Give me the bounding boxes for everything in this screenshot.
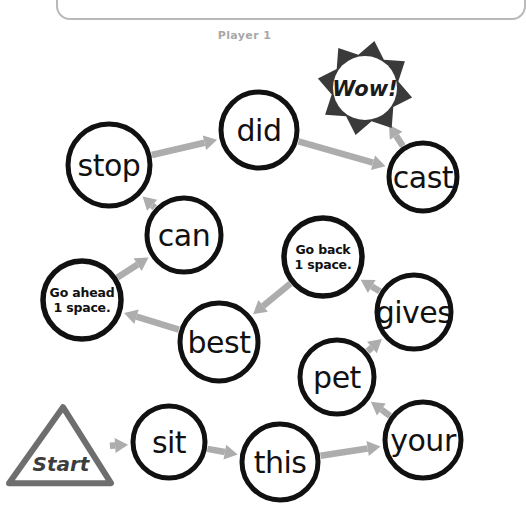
node-label-your: your — [390, 423, 457, 458]
node-stop[interactable]: stop — [68, 124, 150, 206]
arrow-this-to-your — [321, 441, 381, 456]
node-label-cast: cast — [393, 160, 454, 195]
node-best[interactable]: best — [180, 303, 258, 381]
node-goahead[interactable]: Go ahead1 space. — [43, 261, 121, 339]
node-label-stop: stop — [78, 148, 141, 183]
node-label-did: did — [237, 113, 282, 148]
arrow-sit-to-this — [207, 445, 237, 460]
node-label-pet: pet — [313, 360, 362, 395]
node-your[interactable]: your — [385, 402, 461, 478]
node-gives[interactable]: gives — [376, 275, 453, 349]
node-cast[interactable]: cast — [389, 143, 457, 211]
arrow-start-to-sit — [110, 438, 128, 453]
arrow-gives-to-goback — [361, 280, 380, 293]
node-label-goahead: Go ahead1 space. — [50, 284, 115, 314]
start-marker[interactable]: Start — [9, 407, 111, 483]
arrow-pet-to-gives — [367, 339, 382, 353]
node-label-best: best — [188, 325, 252, 360]
arrow-goahead-to-can — [117, 258, 148, 278]
node-label-goback: Go back1 space. — [295, 241, 352, 271]
arrow-cast-to-reward — [389, 125, 403, 146]
reward-label: Wow! — [332, 77, 397, 101]
node-did[interactable]: did — [221, 92, 297, 168]
reward-burst[interactable]: Wow! — [318, 41, 412, 135]
node-can[interactable]: can — [147, 198, 221, 272]
arrow-stop-to-did — [152, 135, 217, 155]
arrow-best-to-goahead — [124, 310, 179, 330]
node-goback[interactable]: Go back1 space. — [284, 218, 362, 296]
start-label: Start — [33, 452, 91, 476]
arrow-goback-to-best — [253, 284, 290, 315]
node-sit[interactable]: sit — [133, 406, 205, 478]
arrow-your-to-pet — [371, 402, 390, 416]
reward-burst-layer: Wow! — [318, 41, 412, 135]
start-marker-layer: Start — [9, 407, 111, 483]
node-label-gives: gives — [376, 295, 453, 330]
arrow-did-to-cast — [298, 141, 385, 170]
node-pet[interactable]: pet — [300, 340, 374, 414]
node-this[interactable]: this — [242, 424, 318, 500]
node-label-sit: sit — [152, 425, 187, 460]
node-label-this: this — [254, 445, 307, 480]
nodes-layer: sitthisyourpetgivesGo back1 space.bestGo… — [43, 92, 461, 500]
node-label-can: can — [158, 218, 210, 253]
